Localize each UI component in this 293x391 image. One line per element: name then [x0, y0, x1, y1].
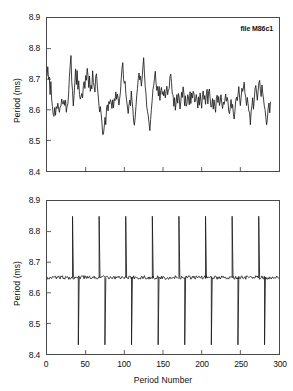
- x-tick-label: 250: [229, 360, 253, 369]
- y-tick-label: 8.6: [14, 289, 40, 298]
- chart-panel-top: Period (ms) 8.9 8.8 8.7 8.6 8.5 8.4 file…: [0, 0, 293, 196]
- chart-panel-bottom: Period (ms) 8.9 8.8 8.7 8.6 8.5 8.4 0 50…: [0, 196, 293, 391]
- y-axis-title-top: Period (ms): [12, 77, 22, 122]
- y-tick-label: 8.6: [14, 106, 40, 115]
- y-tick-label: 8.5: [14, 320, 40, 329]
- y-tick-label: 8.4: [14, 168, 40, 177]
- plot-area-top: file M86c1: [46, 17, 280, 172]
- y-tick-label: 8.8: [14, 227, 40, 236]
- y-tick-label: 8.8: [14, 44, 40, 53]
- y-tick-label: 8.9: [14, 13, 40, 22]
- x-tick-label: 150: [151, 360, 175, 369]
- x-axis-title: Period Number: [46, 375, 280, 385]
- y-tick-label: 8.4: [14, 351, 40, 360]
- y-tick-label: 8.9: [14, 196, 40, 205]
- y-tick-label: 8.7: [14, 75, 40, 84]
- x-tick-label: 50: [73, 360, 97, 369]
- plot-area-bottom: [46, 200, 280, 355]
- x-tick-label: 300: [268, 360, 292, 369]
- file-annotation-label: file M86c1: [241, 25, 273, 32]
- data-trace-bottom: [47, 201, 279, 354]
- data-trace-top: [47, 18, 279, 171]
- y-axis-title-bottom: Period (ms): [12, 260, 22, 305]
- y-tick-label: 8.7: [14, 258, 40, 267]
- figure-container: Period (ms) 8.9 8.8 8.7 8.6 8.5 8.4 file…: [0, 0, 293, 391]
- x-tick-label: 200: [190, 360, 214, 369]
- x-tick-label: 0: [34, 360, 58, 369]
- y-tick-label: 8.5: [14, 137, 40, 146]
- x-tick-label: 100: [112, 360, 136, 369]
